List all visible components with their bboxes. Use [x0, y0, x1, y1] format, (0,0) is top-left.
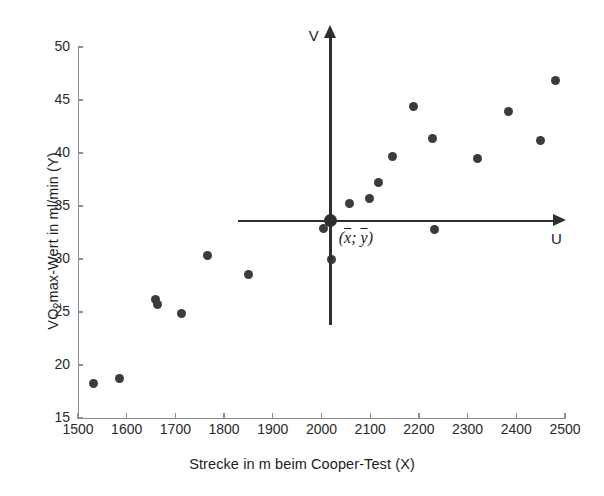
- y-axis-title-suffix: max-Wert in ml/min (Y): [45, 152, 61, 302]
- y-axis-tick: [78, 46, 83, 47]
- y-axis-line: [78, 47, 79, 419]
- centroid-label: (x; y): [339, 229, 373, 247]
- x-axis-tick: [175, 413, 176, 419]
- y-axis-tick: [78, 364, 83, 365]
- y-axis-tick: [78, 99, 83, 100]
- data-point: [388, 152, 397, 161]
- x-axis-tick: [516, 413, 517, 419]
- y-axis-title: VO2max-Wert in ml/min (Y): [45, 91, 63, 391]
- data-point: [504, 107, 513, 116]
- y-axis-tick: [78, 152, 83, 153]
- x-axis-tick: [272, 413, 273, 419]
- data-point: [244, 270, 253, 279]
- x-axis-title: Strecke in m beim Cooper-Test (X): [0, 456, 604, 472]
- y-axis-tick-label: 40: [30, 144, 70, 160]
- v-axis-label: V: [309, 27, 319, 44]
- data-point: [365, 194, 374, 203]
- x-axis-tick: [77, 413, 78, 419]
- data-point: [551, 76, 560, 85]
- centroid-marker: [324, 214, 337, 227]
- y-axis-tick: [78, 258, 83, 259]
- y-axis-tick: [78, 417, 83, 418]
- x-axis-tick: [418, 413, 419, 419]
- y-axis-tick: [78, 205, 83, 206]
- data-point: [473, 154, 482, 163]
- data-point: [203, 251, 212, 260]
- data-point: [153, 300, 162, 309]
- y-axis-tick-label: 20: [30, 356, 70, 372]
- y-axis-tick-label: 30: [30, 250, 70, 266]
- x-axis-tick: [564, 413, 565, 419]
- y-axis-tick-label: 35: [30, 197, 70, 213]
- y-axis-tick: [78, 311, 83, 312]
- data-point: [430, 225, 439, 234]
- data-point: [428, 134, 437, 143]
- u-axis-arrow-icon: [553, 214, 566, 226]
- data-point: [374, 178, 383, 187]
- x-axis-tick: [370, 413, 371, 419]
- v-axis-arrow-icon: [324, 25, 336, 38]
- y-axis-tick-label: 25: [30, 303, 70, 319]
- data-point: [409, 102, 418, 111]
- data-point: [345, 199, 354, 208]
- x-axis-tick: [467, 413, 468, 419]
- u-axis-label: U: [551, 230, 562, 247]
- y-axis-tick-label: 45: [30, 91, 70, 107]
- data-point: [536, 136, 545, 145]
- x-axis-tick: [321, 413, 322, 419]
- y-axis-tick-label: 50: [30, 38, 70, 54]
- u-axis-line: [238, 220, 553, 223]
- data-point: [89, 379, 98, 388]
- data-point: [115, 374, 124, 383]
- x-axis-tick: [126, 413, 127, 419]
- x-axis-tick-label: 2500: [535, 421, 595, 437]
- v-axis-line: [329, 38, 332, 325]
- data-point: [177, 309, 186, 318]
- scatter-plot-figure: VO2max-Wert in ml/min (Y) Strecke in m b…: [0, 0, 604, 496]
- x-axis-tick: [223, 413, 224, 419]
